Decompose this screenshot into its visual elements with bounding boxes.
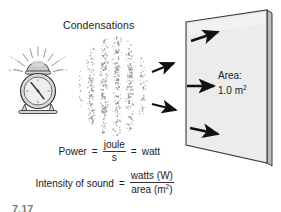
power-equation: Power = joule s = watt: [56, 140, 163, 163]
intensity-denominator-close: ): [169, 184, 172, 195]
sound-direction-arrow-icon: [152, 63, 176, 110]
condensation-dots-icon: [77, 36, 148, 139]
intensity-equation-numerator: watts (W): [130, 171, 174, 183]
power-equation-equals-2: =: [128, 146, 139, 157]
intensity-equation-denominator: area (m2): [130, 183, 173, 195]
power-equation-rhs: watt: [139, 146, 162, 157]
power-equation-numerator: joule: [103, 140, 126, 152]
figure-caption: 7.17: [12, 203, 33, 212]
power-equation-equals-1: =: [89, 146, 100, 157]
alarm-clock-icon: [9, 47, 67, 114]
condensations-label: Condensations: [63, 19, 134, 31]
power-equation-lhs: Power: [56, 146, 89, 157]
power-equation-fraction: joule s: [103, 140, 126, 163]
power-equation-denominator: s: [111, 152, 118, 163]
intensity-equation-equals: =: [116, 178, 127, 189]
area-label-line2: 1.0 m2: [218, 82, 247, 97]
area-unit-exponent: 2: [243, 84, 247, 91]
sound-intensity-figure: Condensations Area: 1.0 m2 Power = joule…: [0, 0, 281, 212]
area-label-line1: Area:: [218, 70, 247, 82]
intensity-equation-lhs: Intensity of sound: [33, 178, 116, 189]
area-annotation: Area: 1.0 m2: [218, 70, 247, 96]
area-value: 1.0 m: [218, 85, 243, 96]
intensity-equation: Intensity of sound = watts (W) area (m2): [33, 171, 176, 195]
intensity-denominator-text: area (m: [131, 184, 165, 195]
intensity-equation-fraction: watts (W) area (m2): [130, 171, 174, 195]
